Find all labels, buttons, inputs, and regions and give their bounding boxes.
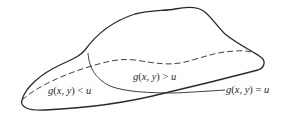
label-level-curve: g(x, y) = u xyxy=(226,85,269,96)
label-text: g(x, y) = u xyxy=(226,84,269,95)
label-text: g(x, y) > u xyxy=(133,71,176,82)
label-text: g(x, y) < u xyxy=(48,85,91,96)
label-greater-than-region: g(x, y) > u xyxy=(133,72,176,83)
label-less-than-region: g(x, y) < u xyxy=(48,86,91,97)
region-diagram xyxy=(0,0,290,119)
